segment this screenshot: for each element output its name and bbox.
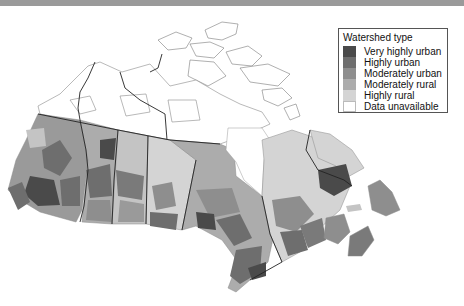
swatch-highly-rural [343,90,356,101]
legend-item-highly-rural: Highly rural [343,90,443,101]
swatch-data-unavailable [343,101,356,112]
legend-item-highly-urban: Highly urban [343,57,443,68]
legend-label: Highly rural [364,90,415,101]
legend-label: Data unavailable [364,101,439,112]
province-bc [8,114,88,222]
swatch-moderately-rural [343,79,356,90]
swatch-moderately-urban [343,68,356,79]
legend-item-moderately-rural: Moderately rural [343,79,443,90]
legend-item-data-unavailable: Data unavailable [343,101,443,112]
legend: Watershed type Very highly urban Highly … [338,28,448,113]
swatch-highly-urban [343,57,356,68]
legend-label: Very highly urban [364,46,441,57]
legend-label: Highly urban [364,57,420,68]
province-saskatchewan [112,130,148,224]
legend-title: Watershed type [343,32,443,44]
legend-item-moderately-urban: Moderately urban [343,68,443,79]
legend-item-very-highly-urban: Very highly urban [343,46,443,57]
legend-label: Moderately rural [364,79,436,90]
swatch-very-highly-urban [343,46,356,57]
legend-label: Moderately urban [364,68,442,79]
